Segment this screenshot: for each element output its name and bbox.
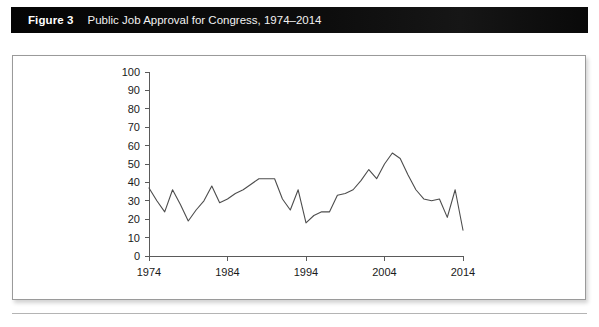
y-tick-label: 10 bbox=[128, 232, 140, 244]
figure-title-text: Public Job Approval for Congress, 1974–2… bbox=[88, 14, 322, 26]
page-caption-sliver bbox=[13, 319, 573, 327]
series-group bbox=[149, 153, 463, 230]
y-tick-label: 90 bbox=[128, 84, 140, 96]
x-tick-label: 2004 bbox=[372, 266, 396, 278]
y-tick-label: 70 bbox=[128, 121, 140, 133]
figure-frame: 0102030405060708090100 19741984199420042… bbox=[12, 55, 586, 300]
y-axis-ticks: 0102030405060708090100 bbox=[122, 66, 149, 262]
x-tick-label: 1994 bbox=[294, 266, 318, 278]
x-tick-label: 2014 bbox=[451, 266, 475, 278]
line-chart: 0102030405060708090100 19741984199420042… bbox=[13, 56, 587, 301]
y-axis: 0102030405060708090100 bbox=[122, 66, 149, 262]
x-axis: 19741984199420042014 bbox=[137, 256, 475, 278]
y-tick-label: 40 bbox=[128, 176, 140, 188]
series-line-congress-approval bbox=[149, 153, 463, 230]
x-axis-ticks: 19741984199420042014 bbox=[137, 256, 475, 278]
y-tick-label: 100 bbox=[122, 66, 140, 78]
figure-title-bar: Figure 3 Public Job Approval for Congres… bbox=[11, 7, 588, 33]
y-tick-label: 80 bbox=[128, 103, 140, 115]
x-tick-label: 1984 bbox=[215, 266, 239, 278]
y-tick-label: 50 bbox=[128, 158, 140, 170]
chart-svg: 0102030405060708090100 19741984199420042… bbox=[13, 56, 587, 301]
x-tick-label: 1974 bbox=[137, 266, 161, 278]
y-tick-label: 0 bbox=[134, 250, 140, 262]
figure-number-label: Figure 3 bbox=[28, 14, 74, 26]
page-divider-rule bbox=[12, 313, 587, 314]
y-tick-label: 20 bbox=[128, 213, 140, 225]
y-tick-label: 30 bbox=[128, 195, 140, 207]
y-tick-label: 60 bbox=[128, 140, 140, 152]
